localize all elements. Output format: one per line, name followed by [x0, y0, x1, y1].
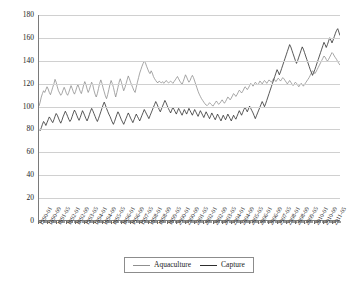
legend-entry-aquaculture: Aquaculture	[133, 261, 191, 269]
gridline	[39, 61, 340, 62]
x-axis-tick	[340, 221, 341, 223]
y-axis-tick-label: 20	[8, 194, 34, 202]
y-axis-tick-label: 120	[8, 80, 34, 88]
gridline	[39, 129, 340, 130]
series-capture	[39, 29, 340, 131]
series-lines	[39, 15, 340, 220]
plot-area	[38, 15, 340, 221]
y-axis-tick-label: 160	[8, 34, 34, 42]
gridline	[39, 198, 340, 199]
chart-container: 020406080100120140160180 1990-011990-091…	[0, 0, 360, 286]
gridline	[39, 152, 340, 153]
legend-label-aquaculture: Aquaculture	[154, 261, 191, 269]
gridline	[39, 84, 340, 85]
gridline	[39, 175, 340, 176]
y-axis-tick-label: 60	[8, 148, 34, 156]
y-axis-tick-label: 100	[8, 103, 34, 111]
gridline	[39, 38, 340, 39]
legend-swatch-capture	[200, 265, 217, 266]
y-axis-tick-label: 80	[8, 125, 34, 133]
legend-swatch-aquaculture	[133, 265, 150, 266]
y-axis-tick-label: 180	[8, 11, 34, 19]
legend-entry-capture: Capture	[200, 261, 245, 269]
y-axis-tick-label: 0	[8, 217, 34, 225]
chart-legend: Aquaculture Capture	[124, 257, 254, 273]
gridline	[39, 107, 340, 108]
legend-label-capture: Capture	[221, 261, 245, 269]
gridline	[39, 15, 340, 16]
y-axis-tick-label: 140	[8, 57, 34, 65]
y-axis-tick-label: 40	[8, 171, 34, 179]
